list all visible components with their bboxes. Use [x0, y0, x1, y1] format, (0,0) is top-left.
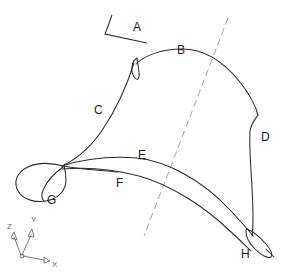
edge-curve-f-band-lower [62, 168, 251, 251]
edge-curve-band-tie-left [62, 166, 118, 172]
cusp-loop-top-left [132, 58, 139, 79]
axis-label-y: Y [31, 216, 36, 224]
axis-label-x: X [52, 261, 57, 269]
centerline-dashed [144, 18, 228, 236]
axis-triad [11, 229, 50, 263]
edge-label-b: B [177, 44, 185, 56]
loop-h-pointed [246, 229, 272, 258]
edge-label-d: D [261, 131, 270, 143]
axis-label-z: Z [7, 223, 12, 231]
loop-g-teardrop [16, 164, 66, 202]
axis-arrowhead-z [11, 232, 17, 240]
edge-label-f: F [116, 177, 123, 189]
axis-line-y [22, 235, 31, 255]
edge-label-a: A [133, 21, 141, 33]
edge-curve-b-top [136, 49, 258, 115]
edge-label-e: E [138, 149, 146, 161]
blade-surface-drawing [0, 0, 285, 280]
edge-label-c: C [94, 104, 103, 116]
diagram-canvas: A B C D E F G H Z Y X [0, 0, 285, 280]
edge-label-g: G [47, 194, 56, 206]
axis-arrowhead-x [44, 257, 50, 263]
axis-line-x [23, 256, 44, 260]
edge-label-h: H [241, 248, 250, 260]
edge-curve-d-right [250, 115, 258, 236]
